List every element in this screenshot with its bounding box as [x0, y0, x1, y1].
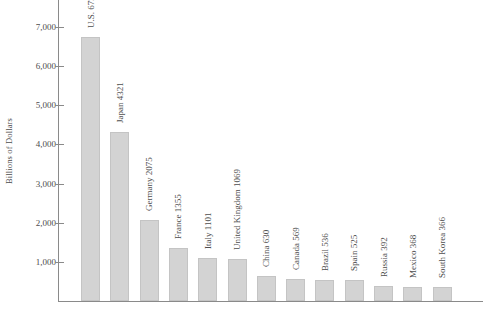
- bar-italy: [198, 258, 217, 301]
- bar-spain: [345, 280, 364, 301]
- bar-value-label: Italy 1101: [203, 212, 212, 248]
- y-axis-tick-label: 3,000: [16, 179, 56, 188]
- bar-group: South Korea 366: [433, 0, 452, 301]
- plot-area: U.S. 6737Japan 4321Germany 2075France 13…: [58, 0, 483, 302]
- y-axis-tick-label: 5,000: [16, 101, 56, 110]
- bar-united-kingdom: [228, 259, 247, 301]
- bar-japan: [110, 132, 129, 301]
- bar-value-label: Mexico 368: [408, 234, 417, 277]
- bar-value-label: Russia 392: [379, 237, 388, 277]
- bar-value-label: Brazil 536: [320, 233, 329, 271]
- bar-group: Mexico 368: [403, 0, 422, 301]
- bar-mexico: [403, 287, 422, 301]
- bar-group: Russia 392: [374, 0, 393, 301]
- y-axis-tick-labels: 1,0002,0003,0004,0005,0006,0007,000: [16, 0, 56, 316]
- bar-group: U.S. 6737: [81, 0, 100, 301]
- bar-russia: [374, 286, 393, 301]
- y-axis-title-label: Billions of Dollars: [4, 117, 14, 183]
- bar-value-label: Canada 569: [291, 227, 300, 270]
- bar-value-label: China 630: [262, 230, 271, 267]
- bar-group: Germany 2075: [140, 0, 159, 301]
- bar-brazil: [315, 280, 334, 301]
- bar-value-label: Germany 2075: [145, 157, 154, 211]
- y-axis-tick-label: 6,000: [16, 62, 56, 71]
- bar-chart-figure: Billions of Dollars 1,0002,0003,0004,000…: [0, 0, 485, 316]
- bar-u-s: [81, 37, 100, 301]
- bar-group: Canada 569: [286, 0, 305, 301]
- y-axis-tick-label: 1,000: [16, 257, 56, 266]
- bar-value-label: Japan 4321: [115, 82, 124, 123]
- y-axis-tick-label: 2,000: [16, 218, 56, 227]
- y-axis-tick-label: 4,000: [16, 140, 56, 149]
- bar-value-label: United Kingdom 1069: [233, 169, 242, 250]
- bar-china: [257, 276, 276, 301]
- bar-value-label: Spain 525: [350, 235, 359, 271]
- bar-france: [169, 248, 188, 301]
- bar-group: Italy 1101: [198, 0, 217, 301]
- bar-value-label: U.S. 6737: [86, 0, 95, 28]
- bar-value-label: South Korea 366: [438, 217, 447, 278]
- bars-layer: U.S. 6737Japan 4321Germany 2075France 13…: [59, 0, 483, 301]
- y-axis-tick-label: 7,000: [16, 23, 56, 32]
- bar-germany: [140, 220, 159, 301]
- bar-group: Brazil 536: [315, 0, 334, 301]
- bar-group: China 630: [257, 0, 276, 301]
- bar-group: Japan 4321: [110, 0, 129, 301]
- bar-group: France 1355: [169, 0, 188, 301]
- bar-group: Spain 525: [345, 0, 364, 301]
- bar-value-label: France 1355: [174, 194, 183, 239]
- bar-canada: [286, 279, 305, 301]
- bar-group: United Kingdom 1069: [228, 0, 247, 301]
- bar-south-korea: [433, 287, 452, 301]
